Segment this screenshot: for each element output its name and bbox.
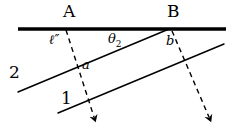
label-theta-symbol: θ	[108, 31, 116, 46]
label-theta-2: θ2	[108, 32, 122, 49]
label-line-1: 1	[61, 90, 72, 107]
label-point-a: A	[63, 3, 75, 20]
label-angle-a: a	[82, 58, 90, 71]
figure-canvas	[0, 0, 232, 130]
label-theta-subscript: 2	[116, 39, 122, 49]
solid-line-1	[58, 44, 224, 113]
label-line-2: 2	[9, 64, 20, 81]
label-point-b: B	[167, 3, 180, 20]
label-ell-double-prime: ℓ″	[49, 33, 59, 46]
geometry-figure: A B ℓ″ θ2 b a 2 1	[0, 0, 232, 130]
label-angle-b: b	[166, 34, 174, 47]
solid-line-2	[18, 29, 169, 92]
dashed-ray-from-b	[172, 31, 209, 117]
